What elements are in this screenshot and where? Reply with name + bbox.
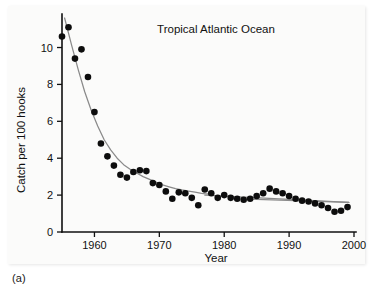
- data-point: [260, 190, 267, 197]
- y-tick-label: 10: [41, 42, 53, 54]
- x-tick-label: 1960: [82, 239, 106, 251]
- fit-line-exponential-decline-fit: [65, 18, 208, 194]
- y-axis-title: Catch per 100 hooks: [15, 87, 27, 193]
- data-point: [130, 169, 137, 176]
- data-point: [195, 202, 202, 209]
- data-point: [169, 195, 176, 202]
- data-point: [98, 140, 105, 147]
- data-point: [150, 180, 157, 187]
- fitted-trend-lines: [65, 18, 349, 202]
- data-point: [91, 109, 98, 116]
- data-point: [78, 46, 85, 53]
- data-point: [286, 193, 293, 200]
- data-point: [338, 207, 345, 214]
- y-tick-label: 6: [47, 115, 53, 127]
- x-axis-title: Year: [204, 252, 227, 264]
- data-point: [234, 195, 241, 202]
- y-axis-ticks: 0246810: [41, 42, 62, 238]
- data-point: [227, 195, 234, 202]
- axes-group: [62, 14, 356, 232]
- y-tick-label: 0: [47, 226, 53, 238]
- data-point: [214, 195, 221, 202]
- x-tick-label: 2000: [342, 239, 366, 251]
- data-point: [221, 192, 228, 199]
- data-point: [143, 168, 150, 175]
- data-point: [163, 188, 170, 195]
- data-point: [247, 195, 254, 202]
- data-point: [325, 205, 332, 212]
- y-tick-label: 8: [47, 78, 53, 90]
- data-point: [240, 196, 247, 203]
- data-point: [331, 208, 338, 215]
- chart-title: Tropical Atlantic Ocean: [157, 23, 275, 35]
- y-tick-label: 2: [47, 189, 53, 201]
- x-axis-ticks: 19601970198019902000: [82, 232, 366, 251]
- data-point: [312, 200, 319, 207]
- data-point: [299, 197, 306, 204]
- data-point: [72, 55, 79, 62]
- x-tick-label: 1970: [147, 239, 171, 251]
- x-tick-label: 1980: [212, 239, 236, 251]
- data-point: [176, 189, 183, 196]
- data-point: [188, 195, 195, 202]
- data-point: [137, 167, 144, 174]
- data-point: [318, 202, 325, 209]
- x-tick-label: 1990: [277, 239, 301, 251]
- data-point: [104, 153, 111, 160]
- data-point: [279, 190, 286, 197]
- data-point: [253, 193, 260, 200]
- chart-canvas: 0246810 19601970198019902000 Tropical At…: [0, 0, 387, 298]
- data-points: [59, 24, 351, 215]
- data-point: [273, 188, 280, 195]
- data-point: [292, 195, 299, 202]
- data-point: [124, 174, 131, 181]
- data-point: [65, 24, 72, 31]
- data-point: [182, 190, 189, 197]
- data-point: [208, 190, 215, 197]
- data-point: [266, 185, 273, 192]
- y-tick-label: 4: [47, 152, 53, 164]
- figure-root: 0246810 19601970198019902000 Tropical At…: [0, 0, 387, 298]
- data-point: [85, 74, 92, 81]
- data-point: [117, 172, 124, 179]
- data-point: [201, 186, 208, 193]
- data-point: [305, 198, 312, 205]
- panel-caption: (a): [12, 272, 26, 284]
- data-point: [344, 204, 351, 211]
- data-point: [156, 182, 163, 189]
- data-point: [111, 162, 118, 169]
- data-point: [59, 33, 66, 40]
